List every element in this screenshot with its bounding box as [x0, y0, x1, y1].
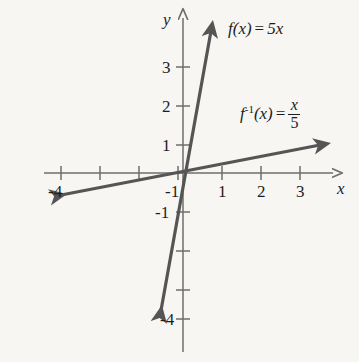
function-f-inverse-label: f-1(x)=x5 — [240, 98, 300, 133]
coordinate-plot — [0, 0, 359, 362]
f-arg: (x) — [233, 19, 252, 38]
y-tick-label-1: 1 — [162, 137, 171, 154]
y-tick-label-3: 3 — [162, 59, 171, 76]
y-tick-label-2: 2 — [162, 98, 171, 115]
x-tick-label-1: 1 — [218, 183, 227, 200]
finv-exponent: -1 — [245, 103, 254, 115]
x-tick-label--4: -4 — [48, 183, 62, 200]
f-rhs: 5x — [267, 19, 283, 38]
x-tick-label-2: 2 — [257, 183, 266, 200]
finv-fraction: x5 — [288, 97, 300, 132]
f-equals: = — [252, 19, 268, 38]
y-tick-label--1: -1 — [155, 204, 169, 221]
finv-arg: (x) — [254, 104, 273, 123]
function-f-label: f(x)=5x — [228, 20, 283, 37]
y-tick-label--4: -4 — [160, 311, 174, 328]
finv-numerator: x — [288, 97, 300, 114]
x-tick-label--1: -1 — [165, 183, 179, 200]
finv-equals: = — [273, 104, 289, 123]
axis-lines — [44, 18, 333, 352]
finv-denominator: 5 — [288, 115, 300, 132]
y-axis-label: y — [163, 11, 171, 28]
graph-figure: y x -4 -1 1 2 3 3 2 1 -1 -4 f(x)=5x f-1(… — [0, 0, 359, 362]
x-axis-label: x — [337, 180, 345, 197]
x-tick-label-3: 3 — [296, 183, 305, 200]
